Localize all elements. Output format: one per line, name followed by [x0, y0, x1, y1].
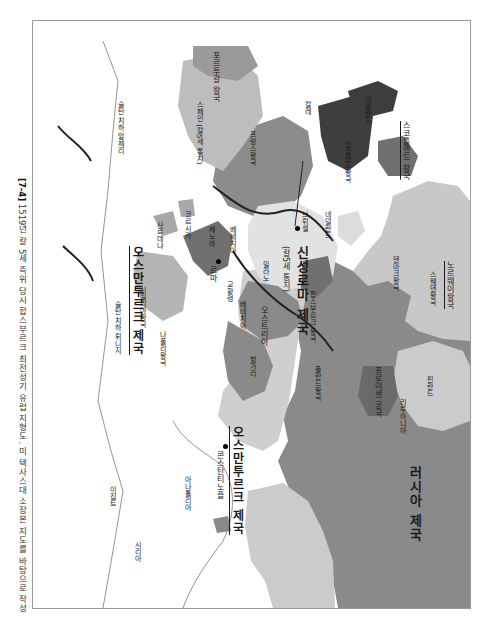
label-finland: 핀란드 [425, 376, 432, 397]
label-bohemia: 합스부르크 왕국 [308, 291, 315, 342]
label-anatolia: 아나톨리아 [183, 476, 190, 511]
label-denmark: 덴마크왕국 [391, 256, 398, 291]
label-syria: 시리아 [133, 541, 140, 562]
map-frame: 포르투갈 왕국 스페인 (칼5세 통치) 술탄 치하 알제리 술탄 치하 튀니지… [32, 20, 471, 609]
label-prussia: 프로이센 공국 [373, 366, 381, 417]
label-hre-sub: (칼5세 통치) [281, 246, 289, 292]
caption-text: 1519년 칼 5세 즉위 당시 합스부르크 최전성기 유럽 지형도. 미 텍사… [17, 204, 27, 614]
label-hre: 신성로마 제국 [295, 246, 308, 336]
label-venice: 베네치아 [228, 226, 235, 254]
label-tunisia: 술탄 치하 튀니지 [113, 301, 120, 354]
label-ireland: 아일랜드 [363, 96, 370, 124]
label-brussels: 브뤼셀 [300, 211, 307, 232]
label-spain: 스페인 (칼5세 통치) [195, 101, 202, 164]
label-rome: 로마 [208, 266, 216, 282]
label-lithuania: 리투아니아 [398, 399, 405, 434]
coastline-anatolia [173, 421, 232, 608]
label-poland: 폴란드왕국 [313, 366, 320, 401]
label-russia: 러시아 제국 [408, 466, 421, 542]
label-algeria: 술탄 치하 알제리 [116, 101, 123, 154]
constantinople-marker [223, 444, 228, 449]
label-venice-2: 베네치아 [238, 301, 245, 329]
label-papal-states: 교황령 [225, 281, 232, 302]
rome-marker [216, 259, 221, 264]
label-ottoman-africa: 오스만투르크 제국 [131, 246, 143, 355]
label-austria: 오스트리아 [259, 306, 267, 346]
label-corsica: 코르시카 [183, 211, 190, 239]
label-egypt: 이집트 [108, 486, 115, 507]
label-naples: 나폴리왕국 [158, 331, 165, 366]
label-england: 잉글랜드왕국 [343, 141, 350, 183]
label-calais: 칼레 [303, 101, 310, 115]
label-milan: 밀라노 [261, 261, 268, 282]
cyprus-region [213, 516, 231, 533]
label-constantinople: 콘스탄티노플 [215, 451, 223, 499]
figure-caption: [7-4] 1519년 칼 5세 즉위 당시 합스부르크 최전성기 유럽 지형도… [16, 178, 28, 613]
label-genoa: 제노바 [207, 226, 214, 247]
scotland-region [378, 136, 418, 176]
figure-number: [7-4] [17, 178, 27, 201]
africa-border-line-2 [58, 126, 91, 161]
label-sweden: 스웨덴왕국 [428, 271, 435, 306]
label-norway: 노르웨이왕국 [445, 261, 453, 309]
label-scotland: 스코틀랜드 왕국 [401, 121, 409, 180]
label-sardinia: 사르데냐 [155, 221, 162, 249]
brussels-marker [295, 226, 300, 231]
label-france: 프랑스왕국 [248, 131, 255, 166]
label-hungary: 헝가리 [248, 356, 255, 377]
label-portugal: 포르투갈 왕국 [211, 51, 219, 102]
label-ottoman-main: 오스만투르크 제국 [231, 426, 243, 535]
europe-map-graphic [33, 21, 470, 608]
denmark-region [338, 211, 365, 246]
label-netherlands: 네덜란드 [323, 211, 330, 239]
africa-border-line-1 [63, 246, 93, 281]
